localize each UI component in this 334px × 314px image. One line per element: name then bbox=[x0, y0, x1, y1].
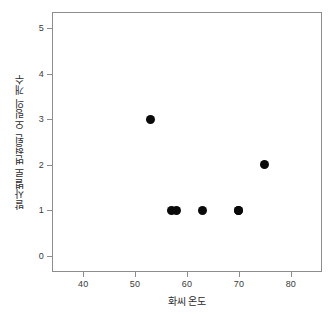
x-axis-tick-label: 70 bbox=[234, 279, 244, 289]
data-point bbox=[172, 206, 181, 215]
y-axis-tick-label: 3 bbox=[39, 114, 44, 124]
x-axis-tick bbox=[135, 272, 136, 277]
plot-area bbox=[52, 12, 322, 272]
x-axis-tick bbox=[83, 272, 84, 277]
x-axis-tick-label: 50 bbox=[130, 279, 140, 289]
data-point bbox=[234, 206, 243, 215]
data-point bbox=[198, 206, 207, 215]
y-axis-tick bbox=[47, 210, 52, 211]
y-axis-tick-label: 5 bbox=[39, 23, 44, 33]
data-point bbox=[260, 160, 269, 169]
x-axis-tick-label: 80 bbox=[286, 279, 296, 289]
y-axis-tick-label: 1 bbox=[39, 205, 44, 215]
x-axis-tick bbox=[291, 272, 292, 277]
x-axis-tick-label: 60 bbox=[182, 279, 192, 289]
data-point bbox=[146, 115, 155, 124]
y-axis-tick bbox=[47, 119, 52, 120]
y-axis-tick bbox=[47, 28, 52, 29]
y-axis-title-container: 발사별로 변형된 오링의 개수 bbox=[9, 12, 31, 272]
y-axis-tick bbox=[47, 74, 52, 75]
y-axis-tick-label: 0 bbox=[39, 251, 44, 261]
y-axis-tick-label: 4 bbox=[39, 69, 44, 79]
x-axis-tick-label: 40 bbox=[78, 279, 88, 289]
y-axis-title: 발사별로 변형된 오링의 개수 bbox=[15, 74, 26, 210]
y-axis-tick-label: 2 bbox=[39, 160, 44, 170]
x-axis-tick bbox=[239, 272, 240, 277]
y-axis-tick bbox=[47, 165, 52, 166]
y-axis-tick bbox=[47, 256, 52, 257]
x-axis-title: 화씨 온도 bbox=[52, 293, 322, 308]
scatter-plot-figure: 발사별로 변형된 오링의 개수 화씨 온도 4050607080012345 bbox=[0, 0, 334, 314]
x-axis-tick bbox=[187, 272, 188, 277]
